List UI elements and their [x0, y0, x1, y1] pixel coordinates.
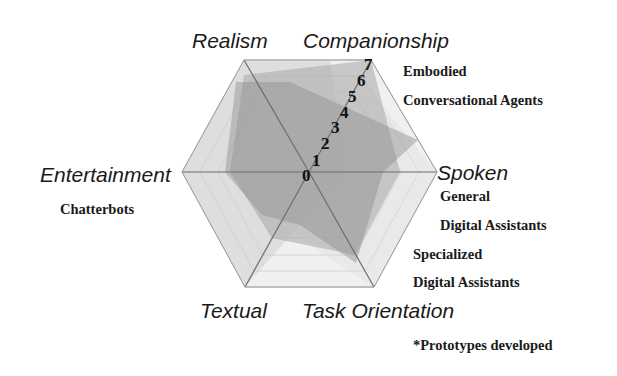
label-chatterbots: Chatterbots — [60, 201, 134, 217]
axis-label-spoken: Spoken — [437, 161, 508, 184]
tick-7: 7 — [364, 55, 373, 74]
tick-2: 2 — [321, 134, 330, 153]
tick-5: 5 — [348, 87, 357, 106]
axis-label-task-orientation: Task Orientation — [302, 299, 454, 322]
label-gda-line1: General — [440, 188, 490, 204]
label-eca-line2: Conversational Agents — [403, 92, 543, 108]
axis-label-entertainment: Entertainment — [40, 163, 172, 186]
tick-3: 3 — [331, 118, 340, 137]
tick-1: 1 — [312, 151, 321, 170]
label-eca-line1: Embodied — [403, 63, 467, 79]
label-sda-line2: Digital Assistants — [413, 274, 520, 290]
label-sda-line1: Specialized — [413, 246, 482, 262]
axis-label-realism: Realism — [192, 29, 268, 52]
axis-label-companionship: Companionship — [303, 29, 449, 52]
prototypes-note: *Prototypes developed — [413, 337, 553, 353]
radar-chart: 0 1 2 3 4 5 6 7 Realism Companionship Sp… — [0, 0, 617, 376]
label-gda-line2: Digital Assistants — [440, 217, 547, 233]
axis-label-textual: Textual — [200, 299, 268, 322]
tick-0: 0 — [302, 166, 311, 185]
